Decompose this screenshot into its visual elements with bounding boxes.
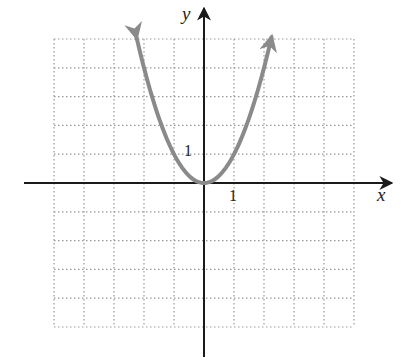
- x-tick-label-one: 1: [229, 187, 237, 205]
- y-axis-label: y: [182, 3, 190, 25]
- x-axis-label: x: [377, 184, 385, 206]
- y-tick-label-one: 1: [184, 142, 192, 160]
- coordinate-plane: [0, 0, 410, 360]
